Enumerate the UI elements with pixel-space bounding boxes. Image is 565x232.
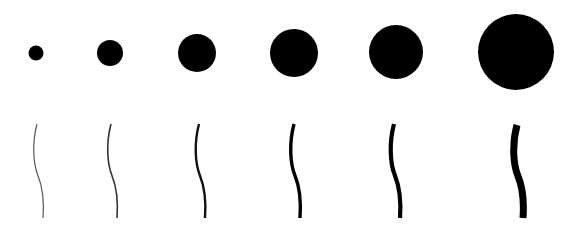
dot-4 [270,29,318,77]
stroke-weight-illustration [0,0,565,232]
dot-6 [478,14,554,90]
stroke-6 [514,125,524,218]
dot-row [29,14,555,90]
stroke-1 [34,124,44,218]
dot-5 [369,25,423,79]
stroke-5 [391,124,401,218]
dot-1 [29,46,44,61]
stroke-row [34,124,524,218]
dot-3 [178,34,216,72]
stroke-4 [291,124,301,218]
dots-and-strokes-canvas [0,0,565,232]
stroke-2 [108,124,118,218]
dot-2 [97,40,123,66]
stroke-3 [196,124,206,218]
